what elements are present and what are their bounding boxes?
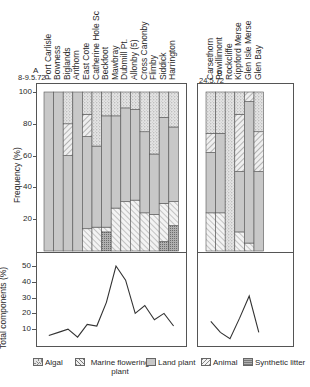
bar-segment — [235, 172, 245, 232]
marine-swatch-icon — [75, 358, 85, 366]
bar-segment — [63, 156, 73, 251]
legend-label: Algal — [45, 358, 63, 367]
bar-segment — [102, 227, 112, 232]
bar-segment — [130, 92, 140, 109]
bar-segment — [121, 202, 131, 251]
bar-segment — [244, 102, 254, 244]
legend-label: Land plant — [158, 358, 195, 367]
bar-segment — [63, 92, 73, 124]
bar-segment — [254, 92, 264, 132]
bars-panel-a — [44, 92, 178, 251]
bar-segment — [130, 109, 140, 200]
bar-segment — [92, 227, 102, 251]
bar-segment — [206, 213, 216, 251]
bar-segment — [140, 92, 150, 132]
bar-segment — [102, 232, 112, 251]
chart-canvas — [0, 0, 310, 387]
bar-segment — [73, 92, 83, 251]
legend-item-land: Land plant — [146, 358, 195, 367]
bar-segment — [111, 208, 121, 251]
bar-segment — [92, 146, 102, 227]
legend-item-marine: Marine flowering plant — [75, 358, 153, 376]
bar-segment — [216, 92, 226, 133]
bar-segment — [121, 92, 131, 108]
bar-segment — [216, 133, 226, 213]
bar-segment — [102, 116, 112, 227]
animal-swatch-icon — [201, 358, 211, 366]
bar-segment — [140, 213, 150, 251]
bar-segment — [169, 127, 179, 202]
legend-item-synthetic: Synthetic litter — [243, 358, 305, 367]
bar-segment — [111, 92, 121, 116]
bar-segment — [63, 124, 73, 156]
bar-segment — [82, 114, 92, 136]
bar-segment — [169, 92, 179, 127]
bar-segment — [235, 92, 245, 114]
bar-segment — [206, 152, 216, 212]
bar-segment — [82, 137, 92, 229]
bar-segment — [121, 108, 131, 202]
bar-segment — [44, 92, 54, 251]
bar-segment — [54, 92, 64, 251]
total-line — [49, 266, 174, 337]
bar-segment — [82, 92, 92, 114]
bar-segment — [150, 154, 160, 214]
legend-item-animal: Animal — [201, 358, 237, 367]
synthetic-swatch-icon — [243, 358, 253, 366]
bar-segment — [102, 92, 112, 116]
bar-segment — [235, 232, 245, 251]
legend-label: Synthetic litter — [255, 358, 305, 367]
bar-segment — [130, 200, 140, 251]
legend-label: Animal — [213, 358, 237, 367]
bar-segment — [111, 116, 121, 208]
bar-segment — [159, 203, 169, 241]
bar-segment — [216, 213, 226, 251]
bar-segment — [169, 226, 179, 251]
legend-item-algal: Algal — [33, 358, 63, 367]
bar-segment — [254, 172, 264, 252]
bar-segment — [235, 114, 245, 171]
bar-segment — [225, 92, 235, 251]
bar-segment — [159, 117, 169, 203]
bar-segment — [150, 92, 160, 154]
bar-segment — [244, 243, 254, 251]
total-line — [211, 296, 259, 339]
bar-segment — [159, 92, 169, 117]
total-components-lines — [49, 266, 259, 339]
legend-label: Marine flowering plant — [87, 358, 153, 376]
bar-segment — [206, 133, 216, 152]
land-swatch-icon — [146, 358, 156, 366]
algal-swatch-icon — [33, 358, 43, 366]
bar-segment — [254, 132, 264, 172]
bar-segment — [82, 229, 92, 251]
bar-segment — [244, 92, 254, 102]
bar-segment — [92, 92, 102, 146]
bars-panel-b — [206, 92, 264, 251]
bar-segment — [206, 92, 216, 133]
bar-segment — [169, 202, 179, 226]
bar-segment — [140, 132, 150, 213]
bar-segment — [159, 241, 169, 251]
bar-segment — [150, 214, 160, 251]
